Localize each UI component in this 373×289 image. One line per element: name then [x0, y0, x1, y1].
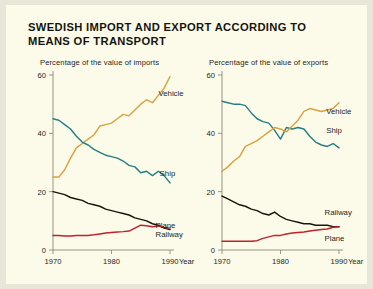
series-line-plane: [222, 227, 339, 242]
series-label-railway: Railway: [325, 208, 352, 217]
chart-svg: 0204060197019801990YearShipVehicleRailwa…: [6, 5, 373, 289]
series-line-ship: [222, 101, 339, 148]
y-tick-label: 0: [211, 246, 215, 255]
x-tick-label: 1990: [331, 257, 348, 266]
x-axis-unit-label: Year: [348, 257, 364, 266]
x-tick-label: 1970: [214, 257, 231, 266]
axis-lines: [222, 71, 343, 250]
series-label-ship: Ship: [326, 126, 342, 135]
y-tick-label: 60: [207, 71, 215, 80]
y-tick-label: 20: [207, 188, 215, 197]
series-line-vehicle: [222, 103, 339, 172]
x-tick-label: 1980: [272, 257, 289, 266]
series-label-vehicle: Vehicle: [326, 107, 351, 116]
series-line-railway: [222, 196, 339, 227]
series-label-plane: Plane: [325, 234, 345, 243]
poster-frame: SWEDISH IMPORT AND EXPORT ACCORDING TO M…: [6, 5, 367, 284]
y-tick-label: 40: [207, 129, 215, 138]
